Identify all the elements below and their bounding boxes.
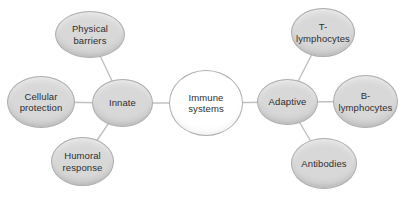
node-label: Innate	[109, 97, 136, 108]
node-adaptive: Adaptive	[257, 79, 318, 125]
node-label: Immune systems	[188, 92, 224, 114]
node-innate: Innate	[92, 79, 153, 127]
node-label: T- lymphocytes	[296, 21, 350, 43]
node-antibodies: Antibodies	[291, 138, 357, 189]
node-label: Adaptive	[269, 96, 307, 107]
node-cellular-protection: Cellular protection	[7, 76, 75, 128]
node-immune-systems: Immune systems	[169, 70, 243, 136]
node-t-lymphocytes: T- lymphocytes	[291, 8, 355, 57]
node-b-lymphocytes: B- lymphocytes	[333, 75, 398, 128]
node-label: Physical barriers	[72, 23, 108, 45]
node-label: Antibodies	[301, 158, 346, 169]
node-physical-barriers: Physical barriers	[55, 11, 125, 58]
node-label: B- lymphocytes	[339, 90, 393, 112]
diagram-canvas: Physical barriers Cellular protection Hu…	[0, 0, 403, 197]
node-label: Cellular protection	[20, 91, 63, 113]
node-label: Humoral response	[63, 150, 103, 172]
node-humoral-response: Humoral response	[51, 137, 114, 186]
